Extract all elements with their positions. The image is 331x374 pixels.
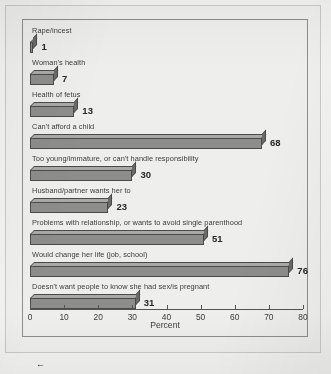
bar-front-face bbox=[30, 74, 54, 85]
bar-value-label: 30 bbox=[140, 169, 151, 180]
bar-track: 7 bbox=[30, 70, 303, 86]
x-axis-title: Percent bbox=[23, 320, 307, 330]
bar-category-label: Problems with relationship, or wants to … bbox=[32, 218, 242, 227]
bar-side-face bbox=[74, 98, 78, 113]
bar-side-face bbox=[289, 258, 293, 273]
x-axis-tick bbox=[132, 305, 133, 309]
x-axis-tick bbox=[303, 305, 304, 309]
bar bbox=[30, 298, 136, 309]
bar-top-face bbox=[30, 198, 113, 202]
plot-area: Rape/incest1Woman's health7Health of fet… bbox=[23, 20, 307, 336]
bar-track: 51 bbox=[30, 230, 303, 246]
bar-side-face bbox=[33, 34, 37, 49]
x-axis-tick bbox=[167, 305, 168, 309]
bar-top-face bbox=[30, 262, 294, 266]
bar-row: Husband/partner wants her to23 bbox=[30, 186, 303, 218]
bar-category-label: Woman's health bbox=[32, 58, 85, 67]
bar-row: Can't afford a child68 bbox=[30, 122, 303, 154]
bar-top-face bbox=[30, 102, 79, 106]
bar-row: Woman's health7 bbox=[30, 58, 303, 90]
bar-side-face bbox=[136, 290, 140, 305]
bar-row: Rape/incest1 bbox=[30, 26, 303, 58]
bar-value-label: 51 bbox=[212, 233, 223, 244]
bar-value-label: 76 bbox=[297, 265, 308, 276]
bar-category-label: Too young/immature, or can't handle resp… bbox=[32, 154, 199, 163]
scanned-page: Rape/incest1Woman's health7Health of fet… bbox=[0, 0, 331, 374]
bar-value-label: 7 bbox=[62, 73, 67, 84]
bar-side-face bbox=[262, 130, 266, 145]
bar-row: Health of fetus13 bbox=[30, 90, 303, 122]
bar-front-face bbox=[30, 266, 289, 277]
bar-top-face bbox=[30, 166, 137, 170]
bar-value-label: 68 bbox=[270, 137, 281, 148]
bar-side-face bbox=[204, 226, 208, 241]
x-axis-tick bbox=[98, 305, 99, 309]
x-axis-tick bbox=[235, 305, 236, 309]
bar bbox=[30, 138, 262, 149]
x-axis-tick bbox=[201, 305, 202, 309]
bar-row: Too young/immature, or can't handle resp… bbox=[30, 154, 303, 186]
bar-top-face bbox=[30, 230, 208, 234]
bar-track: 68 bbox=[30, 134, 303, 150]
bar-category-label: Would change her life (job, school) bbox=[32, 250, 147, 259]
bar-front-face bbox=[30, 298, 136, 309]
bar-category-label: Can't afford a child bbox=[32, 122, 94, 131]
bar-top-face bbox=[30, 294, 140, 298]
bar-front-face bbox=[30, 202, 108, 213]
bar-front-face bbox=[30, 106, 74, 117]
bar bbox=[30, 234, 204, 245]
bar-category-label: Health of fetus bbox=[32, 90, 80, 99]
bar-side-face bbox=[132, 162, 136, 177]
bar-front-face bbox=[30, 170, 132, 181]
bar bbox=[30, 42, 33, 53]
bar-category-label: Husband/partner wants her to bbox=[32, 186, 131, 195]
bar-track: 13 bbox=[30, 102, 303, 118]
x-axis: 01020304050607080 bbox=[30, 309, 303, 310]
bar-value-label: 31 bbox=[144, 297, 155, 308]
bar-side-face bbox=[54, 66, 58, 81]
x-axis-tick bbox=[269, 305, 270, 309]
bar-track: 23 bbox=[30, 198, 303, 214]
bar-track: 76 bbox=[30, 262, 303, 278]
bar-category-label: Rape/incest bbox=[32, 26, 72, 35]
bar-category-label: Doesn't want people to know she had sex/… bbox=[32, 282, 209, 291]
bar bbox=[30, 74, 54, 85]
chart-frame: Rape/incest1Woman's health7Health of fet… bbox=[22, 19, 308, 337]
bar-track: 30 bbox=[30, 166, 303, 182]
bar-front-face bbox=[30, 138, 262, 149]
bar-row: Problems with relationship, or wants to … bbox=[30, 218, 303, 250]
bar-value-label: 13 bbox=[82, 105, 93, 116]
bar bbox=[30, 106, 74, 117]
bar-top-face bbox=[30, 134, 266, 138]
bar-row: Would change her life (job, school)76 bbox=[30, 250, 303, 282]
x-axis-tick bbox=[30, 305, 31, 309]
bar-side-face bbox=[108, 194, 112, 209]
bar-value-label: 1 bbox=[41, 41, 46, 52]
x-axis-tick bbox=[64, 305, 65, 309]
bar bbox=[30, 170, 132, 181]
bar bbox=[30, 202, 108, 213]
bar-front-face bbox=[30, 234, 204, 245]
bar bbox=[30, 266, 289, 277]
scan-arrow-artifact: ← bbox=[36, 361, 47, 367]
bar-track: 1 bbox=[30, 38, 303, 54]
bar-value-label: 23 bbox=[116, 201, 127, 212]
